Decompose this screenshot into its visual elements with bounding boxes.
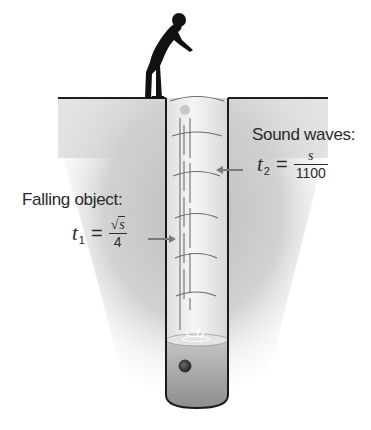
well-diagram: [0, 0, 371, 430]
eq1-variable: t: [72, 221, 78, 246]
eq1-fraction: √s 4: [109, 218, 127, 249]
water: [166, 340, 228, 408]
sound-waves-title: Sound waves:: [252, 125, 355, 145]
eq2-equals: =: [276, 153, 288, 176]
eq2-subscript: 2: [264, 165, 270, 177]
eq2-numerator: s: [306, 149, 315, 163]
eq1-subscript: 1: [79, 234, 85, 246]
person-silhouette-icon: [145, 13, 193, 99]
eq1-numerator: √s: [109, 218, 127, 232]
eq2-variable: t: [257, 152, 263, 177]
eq2-fraction: s 1100: [294, 149, 328, 180]
eq1-denominator: 4: [112, 235, 124, 249]
eq1-equals: =: [91, 222, 103, 245]
falling-object-equation: t 1 = √s 4: [72, 218, 127, 249]
falling-object-title: Falling object:: [22, 190, 122, 210]
eq1-radicand: s: [118, 216, 124, 232]
sound-waves-equation: t 2 = s 1100: [257, 149, 328, 180]
eq2-denominator: 1100: [294, 166, 328, 180]
object-ball-icon: [179, 360, 191, 372]
falling-object-ghost-icon: [180, 105, 190, 115]
